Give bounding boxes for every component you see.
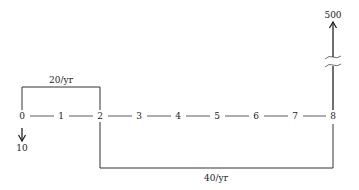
period-label: 2 [97, 111, 103, 121]
outflow-label: 10 [16, 143, 27, 153]
inflow-label: 500 [324, 10, 341, 20]
period-label: 1 [58, 111, 64, 121]
period-label: 7 [292, 111, 298, 121]
period-label: 6 [253, 111, 259, 121]
down-arrow-icon [19, 128, 26, 141]
top-bracket-label: 20/yr [49, 75, 73, 85]
top-bracket [22, 87, 100, 110]
period-label: 0 [19, 111, 25, 121]
diagram-lines [0, 0, 359, 190]
bottom-bracket-label: 40/yr [204, 173, 228, 183]
period-label: 4 [175, 111, 181, 121]
bottom-bracket [100, 122, 333, 168]
cash-flow-diagram: 0 1 2 3 4 5 6 7 8 20/yr 40/yr 10 500 [0, 0, 359, 190]
period-label: 3 [136, 111, 142, 121]
period-label: 8 [330, 111, 336, 121]
period-label: 5 [214, 111, 220, 121]
axis-break-icon [325, 56, 341, 67]
